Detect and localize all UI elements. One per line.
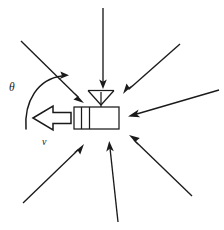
arrival-arrow-top [99,8,107,89]
figure-container: θ v [0,0,224,230]
velocity-label: v [42,136,47,147]
multipath-diagram: θ v [0,0,224,230]
velocity-arrow [33,106,71,130]
arrival-arrow-bottom [106,141,118,222]
mobile-receiver [74,91,119,130]
arrival-arrow-lower-left [23,144,84,203]
theta-label: θ [9,81,15,93]
arrival-arrow-upper-left [21,41,84,103]
arrival-arrow-lower-right [129,135,192,196]
arrival-arrow-right [128,90,219,117]
receiver-body [74,107,119,129]
arrival-arrow-upper-right [123,44,180,94]
